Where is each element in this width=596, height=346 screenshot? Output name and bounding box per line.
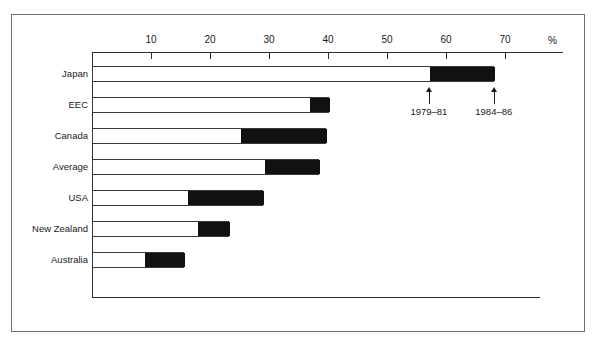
bar-segment-later-period [430, 67, 495, 81]
bar-row [92, 128, 326, 144]
bar-segment-later-period [310, 98, 330, 112]
row-label-wrap: Canada [0, 128, 88, 144]
row-label-wrap: Average [0, 159, 88, 175]
annotation-arrow-stem [494, 91, 495, 104]
row-label: Average [53, 159, 88, 175]
x-axis-tick [328, 52, 329, 59]
row-label: Japan [62, 66, 88, 82]
bar-row [92, 190, 263, 206]
x-axis-tick [210, 52, 211, 59]
x-axis-unit-label: % [548, 35, 557, 47]
x-axis-tick-label: 30 [263, 34, 274, 46]
annotation-label: 1984–86 [475, 106, 512, 118]
x-axis-tick [269, 52, 270, 59]
bar-segment-later-period [188, 191, 264, 205]
x-axis-tick-label: 40 [322, 34, 333, 46]
row-label: USA [68, 190, 88, 206]
row-label-wrap: New Zealand [0, 221, 88, 237]
row-label-wrap: USA [0, 190, 88, 206]
annotation-arrow-head [491, 87, 497, 92]
annotation-arrow-stem [429, 91, 430, 104]
x-axis-tick-label: 10 [145, 34, 156, 46]
x-axis-tick [151, 52, 152, 59]
x-axis-tick [446, 52, 447, 59]
bar-segment-later-period [241, 129, 327, 143]
x-axis-tick-label: 20 [204, 34, 215, 46]
bar-row [92, 221, 229, 237]
x-axis-tick-label: 60 [440, 34, 451, 46]
bar-row [92, 66, 494, 82]
row-label: New Zealand [32, 221, 88, 237]
row-label-wrap: Japan [0, 66, 88, 82]
row-label: Canada [55, 128, 88, 144]
x-axis-tick-label: 70 [499, 34, 510, 46]
x-axis-tick [505, 52, 506, 59]
row-label: Australia [51, 252, 88, 268]
x-axis-tick [387, 52, 388, 59]
bar-segment-later-period [145, 253, 185, 267]
annotation-arrow-head [426, 87, 432, 92]
annotation-label: 1979–81 [410, 106, 447, 118]
row-label: EEC [68, 97, 88, 113]
row-label-wrap: Australia [0, 252, 88, 268]
bar-row [92, 159, 319, 175]
bar-segment-later-period [265, 160, 320, 174]
figure-container: 10203040506070 % JapanEECCanadaAverageUS… [0, 0, 596, 346]
x-axis-tick-label: 50 [381, 34, 392, 46]
bar-row [92, 97, 329, 113]
row-label-wrap: EEC [0, 97, 88, 113]
chart-baseline [92, 297, 540, 298]
bar-segment-later-period [198, 222, 230, 236]
bar-row [92, 252, 184, 268]
